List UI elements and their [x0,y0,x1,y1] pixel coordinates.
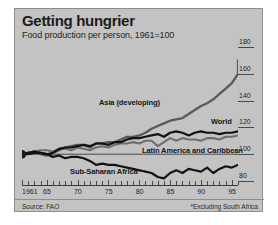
origin-marker [22,150,26,158]
x-axis-major-tick [170,180,171,185]
x-axis-tick-label: 70 [74,187,82,196]
series-label-asia: Asia (developing) [99,98,160,107]
y-axis-tick: 140 [238,91,262,102]
x-axis-minor-tick [34,181,35,185]
excluding-note: *Excluding South Africa [190,202,258,211]
y-axis-tick-label: 120 [239,117,251,126]
x-axis-tick-label: 80 [136,187,144,196]
x-axis-minor-tick [71,181,72,185]
x-axis-tick-label: 85 [167,187,175,196]
y-axis-tick: 160 [238,64,262,75]
x-axis-minor-tick [53,181,54,185]
x-axis-line [22,185,238,186]
y-axis-tick: 180 [238,37,262,48]
x-axis-minor-tick [115,181,116,185]
chart-footer: Source: FAO *Excluding South Africa [15,199,264,212]
x-axis-minor-tick [195,181,196,185]
x-axis-minor-tick [238,181,239,185]
y-axis-tick: 100 [238,144,262,155]
x-axis-minor-tick [152,181,153,185]
series-label-latin-america: Latin America and Caribbean [142,146,243,155]
y-axis-tick-rule [238,74,254,75]
x-axis-tick-label: 90 [197,187,205,196]
x-axis-tick-label: 75 [105,187,113,196]
x-axis-minor-tick [59,181,60,185]
x-axis-major-tick [22,180,23,185]
x-axis-major-tick [47,180,48,185]
x-axis-minor-tick [121,181,122,185]
x-axis-minor-tick [189,181,190,185]
x-axis-minor-tick [176,181,177,185]
y-axis-tick: 120 [238,117,262,128]
x-axis-minor-tick [145,181,146,185]
x-axis-minor-tick [84,181,85,185]
x-axis-major-tick [201,180,202,185]
x-axis-minor-tick [207,181,208,185]
x-axis-minor-tick [213,181,214,185]
chart-header: Getting hungrier Food production per per… [15,9,264,45]
x-axis-minor-tick [90,181,91,185]
x-axis: 196165707580859095 [22,181,238,201]
x-axis-minor-tick [219,181,220,185]
plot-area [22,47,238,181]
x-axis-minor-tick [158,181,159,185]
y-axis-tick-label: 180 [239,37,251,46]
y-axis-tick-rule [238,47,254,48]
source-note: Source: FAO [22,202,59,211]
y-axis-tick-label: 160 [239,64,251,73]
x-axis-tick-label: 1961 [22,187,38,196]
series-label-sub-saharan-africa: Sub-Saharan Africa* [70,167,140,176]
series-line-asia [22,60,238,155]
x-axis-tick-label: 65 [43,187,51,196]
x-axis-tick-label: 95 [228,187,236,196]
x-axis-minor-tick [41,181,42,185]
line-chart-svg [22,47,238,181]
x-axis-major-tick [108,180,109,185]
page-title: Getting hungrier [22,13,264,29]
x-axis-minor-tick [96,181,97,185]
x-axis-minor-tick [28,181,29,185]
y-axis-tick-rule [238,101,254,102]
x-axis-minor-tick [102,181,103,185]
y-axis-tick-label: 140 [239,91,251,100]
y-axis: 80100120140160180 [238,41,264,187]
x-axis-major-tick [232,180,233,185]
chart-card: Getting hungrier Food production per per… [14,8,263,212]
x-axis-minor-tick [164,181,165,185]
chart-subtitle: Food production per person, 1961=100 [22,30,264,41]
x-axis-minor-tick [226,181,227,185]
x-axis-major-tick [139,180,140,185]
x-axis-minor-tick [133,181,134,185]
y-axis-tick-rule [238,154,254,155]
x-axis-major-tick [78,180,79,185]
y-axis-tick: 80 [238,171,262,182]
x-axis-minor-tick [127,181,128,185]
x-axis-minor-tick [65,181,66,185]
y-axis-tick-label: 100 [239,144,251,153]
y-axis-tick-rule [238,127,254,128]
x-axis-minor-tick [182,181,183,185]
series-label-world: World [211,117,232,126]
y-axis-tick-rule [238,181,254,182]
y-axis-tick-label: 80 [239,171,247,180]
